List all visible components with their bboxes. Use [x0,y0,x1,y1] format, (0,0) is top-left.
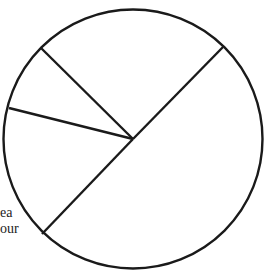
cropped-text-fragment: our [0,221,19,236]
pie-chart [0,0,268,271]
cropped-text-fragment: ea [0,205,12,220]
